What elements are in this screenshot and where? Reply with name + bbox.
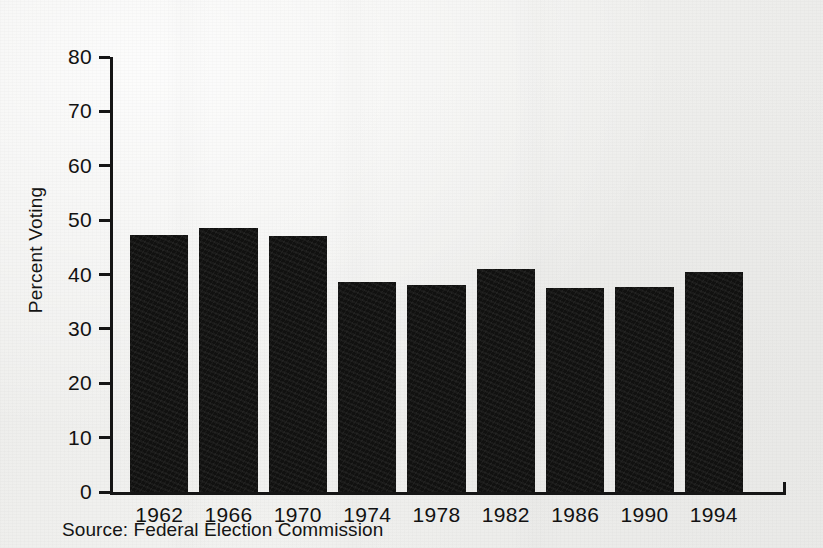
y-axis-title-text: Percent Voting bbox=[25, 187, 47, 313]
y-axis-tick-40: 40 bbox=[99, 273, 110, 276]
bar-1970 bbox=[269, 236, 327, 492]
y-axis-tick-label: 70 bbox=[68, 99, 92, 123]
y-axis-tick-80: 80 bbox=[99, 56, 110, 59]
y-axis-tick-label: 60 bbox=[68, 153, 92, 177]
x-axis-end-tick bbox=[783, 482, 786, 495]
x-axis-tick-label-1978: 1978 bbox=[407, 503, 465, 527]
y-axis-tick-10: 10 bbox=[99, 436, 110, 439]
y-axis-tick-60: 60 bbox=[99, 164, 110, 167]
y-axis-tick-label: 0 bbox=[80, 480, 92, 504]
x-axis-tick-label-1982: 1982 bbox=[477, 503, 535, 527]
plot-area: 01020304050607080 1962196619701974197819… bbox=[110, 57, 786, 492]
x-axis-tick-label-1986: 1986 bbox=[546, 503, 604, 527]
bar-1990 bbox=[615, 287, 673, 492]
source-caption: Source: Federal Election Commission bbox=[62, 519, 383, 541]
y-axis-tick-label: 80 bbox=[68, 45, 92, 69]
y-axis-tick-50: 50 bbox=[99, 219, 110, 222]
bar-1962 bbox=[130, 235, 188, 492]
bar-1986 bbox=[546, 288, 604, 492]
x-axis-tick-label-1994: 1994 bbox=[685, 503, 743, 527]
bar-1974 bbox=[338, 282, 396, 492]
bar-1994 bbox=[685, 272, 743, 492]
y-axis-tick-20: 20 bbox=[99, 382, 110, 385]
chart-page: Percent Voting 01020304050607080 1962196… bbox=[0, 0, 823, 548]
y-axis-line bbox=[110, 57, 113, 493]
x-axis-tick-label-1990: 1990 bbox=[615, 503, 673, 527]
y-axis-tick-label: 30 bbox=[68, 316, 92, 340]
y-axis-tick-70: 70 bbox=[99, 110, 110, 113]
y-axis-tick-label: 10 bbox=[68, 425, 92, 449]
y-axis-tick-label: 50 bbox=[68, 208, 92, 232]
y-axis-title: Percent Voting bbox=[14, 0, 58, 500]
bar-1978 bbox=[407, 285, 465, 492]
x-axis-line bbox=[110, 492, 786, 495]
y-axis-tick-label: 40 bbox=[68, 262, 92, 286]
y-axis-tick-0: 0 bbox=[99, 491, 110, 494]
y-axis-tick-30: 30 bbox=[99, 327, 110, 330]
y-axis-tick-label: 20 bbox=[68, 371, 92, 395]
bar-1966 bbox=[199, 228, 257, 492]
bar-1982 bbox=[477, 269, 535, 492]
